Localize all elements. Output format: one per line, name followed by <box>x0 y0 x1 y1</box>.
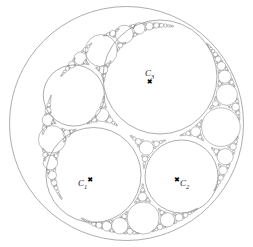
label-c1: C1✖ <box>78 179 93 190</box>
center-marker-c1: ✖ <box>87 176 93 184</box>
label-c2-sub: 2 <box>186 183 189 190</box>
apollonian-gasket-figure: C3✖ C1✖ ✖C2 <box>0 0 253 247</box>
center-marker-c2: ✖ <box>174 176 180 184</box>
gasket-canvas <box>0 0 253 247</box>
label-c3: C3✖ <box>145 69 154 86</box>
label-c2: ✖C2 <box>174 179 189 190</box>
center-marker-c3: ✖ <box>145 79 154 86</box>
